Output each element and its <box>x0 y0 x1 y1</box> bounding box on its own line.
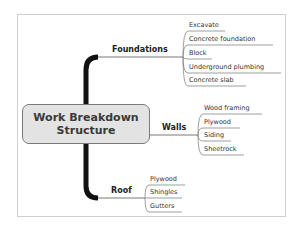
leaf-shingles: Shingles <box>150 188 178 196</box>
central-node-line1: Work Breakdown <box>33 111 138 124</box>
leaf-concrete-slab: Concrete slab <box>189 76 234 84</box>
leaf-sheetrock: Sheetrock <box>204 145 237 153</box>
leaf-wood-framing: Wood framing <box>204 104 250 112</box>
leaf-underground-plumbing: Underground plumbing <box>189 63 264 71</box>
leaf-concrete-foundation: Concrete foundation <box>189 35 255 43</box>
central-node-line2: Structure <box>57 124 116 137</box>
central-node: Work Breakdown Structure <box>22 104 150 144</box>
branch-roof: Roof <box>111 186 132 195</box>
leaf-gutters: Gutters <box>150 202 174 210</box>
leaf-plywood-walls: Plywood <box>204 118 231 126</box>
leaf-excavate: Excavate <box>189 21 219 29</box>
branch-walls: Walls <box>162 123 186 132</box>
leaf-siding: Siding <box>204 131 224 139</box>
leaf-plywood-roof: Plywood <box>150 175 177 183</box>
leaf-block: Block <box>189 49 207 57</box>
branch-foundations: Foundations <box>112 45 168 54</box>
